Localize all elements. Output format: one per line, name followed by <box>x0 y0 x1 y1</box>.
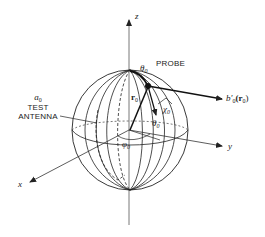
output-close: ) <box>245 93 248 103</box>
theta-top-label: θ0 <box>140 64 147 74</box>
phi-sub: 0 <box>127 144 130 150</box>
theta-mid-sub: 0 <box>156 123 159 129</box>
y-axis <box>129 130 222 146</box>
chi-label: χ0 <box>163 105 170 115</box>
x-axis-label: x <box>18 180 22 189</box>
x-axis <box>30 130 129 182</box>
output-label: b′0(r0) <box>226 94 248 104</box>
probe-label: PROBE <box>156 60 185 68</box>
y-axis-label: y <box>228 142 232 151</box>
test-antenna-line2: ANTENNA <box>14 113 62 121</box>
chi-sub: 0 <box>167 109 170 115</box>
test-antenna-line1: TEST <box>14 104 62 112</box>
phi-label: φ0 <box>122 140 130 150</box>
r-vector-label: r0 <box>131 93 138 103</box>
test-antenna-leader <box>60 116 97 123</box>
output-vector <box>148 86 222 99</box>
theta-top-sub: 0 <box>144 68 147 74</box>
r-vector-sub: 0 <box>135 97 138 103</box>
z-axis-label: z <box>135 12 139 21</box>
test-antenna-label: a0 TEST ANTENNA <box>14 93 62 121</box>
theta-mid-label: θ0 <box>152 119 159 129</box>
